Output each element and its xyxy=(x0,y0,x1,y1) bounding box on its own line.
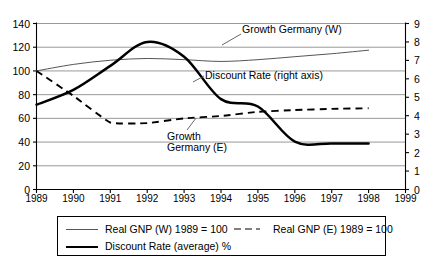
legend-item-discount: Discount Rate (average) % xyxy=(64,238,231,254)
legend-key-gnp-e xyxy=(232,223,268,235)
chart-screenshot: 020406080100120140 0123456789 1989199019… xyxy=(0,0,444,264)
x-tick-label: 1994 xyxy=(204,194,238,204)
leader-growth-west xyxy=(222,34,241,45)
chart-plot-area xyxy=(0,0,444,212)
legend-label-gnp-w: Real GNP (W) 1989 = 100 xyxy=(105,223,228,235)
left-tick-label: 20 xyxy=(4,161,30,172)
x-tick-label: 1999 xyxy=(389,194,423,204)
annotation-growth-west: Growth Germany (W) xyxy=(242,24,342,36)
legend-item-gnp-e: Real GNP (E) 1989 = 100 xyxy=(232,221,393,237)
chart-canvas xyxy=(0,0,444,212)
right-tick-label: 6 xyxy=(414,74,434,85)
legend-key-discount xyxy=(64,240,100,252)
x-tick-label: 1995 xyxy=(241,194,275,204)
x-tick-label: 1990 xyxy=(56,194,90,204)
legend-key-gnp-w xyxy=(64,223,100,235)
right-tick-label: 2 xyxy=(414,148,434,159)
annotation-discount-rate: Discount Rate (right axis) xyxy=(205,70,323,82)
x-tick-label: 1989 xyxy=(20,194,54,204)
series-line-gnp-west xyxy=(37,50,369,71)
right-tick-label: 1 xyxy=(414,166,434,177)
leader-growth-east xyxy=(187,118,196,130)
annotation-growth-east-line2: Germany (E) xyxy=(167,142,227,154)
legend-item-gnp-w: Real GNP (W) 1989 = 100 xyxy=(64,221,228,237)
right-tick-label: 5 xyxy=(414,92,434,103)
series-line-discount-rate xyxy=(37,42,369,145)
x-tick-label: 1996 xyxy=(278,194,312,204)
x-tick-label: 1997 xyxy=(315,194,349,204)
x-tick-label: 1998 xyxy=(352,194,386,204)
right-tick-label: 9 xyxy=(414,19,434,30)
x-tick-label: 1992 xyxy=(130,194,164,204)
left-tick-label: 100 xyxy=(4,66,30,77)
legend-label-discount: Discount Rate (average) % xyxy=(105,240,231,252)
right-tick-label: 3 xyxy=(414,129,434,140)
chart-legend: Real GNP (W) 1989 = 100 Real GNP (E) 198… xyxy=(57,216,386,256)
legend-label-gnp-e: Real GNP (E) 1989 = 100 xyxy=(273,223,393,235)
left-tick-label: 140 xyxy=(4,19,30,30)
right-tick-label: 8 xyxy=(414,37,434,48)
x-tick-label: 1993 xyxy=(167,194,201,204)
left-tick-label: 40 xyxy=(4,137,30,148)
x-tick-label: 1991 xyxy=(93,194,127,204)
left-tick-label: 80 xyxy=(4,90,30,101)
right-tick-label: 4 xyxy=(414,111,434,122)
left-tick-label: 120 xyxy=(4,42,30,53)
left-tick-label: 60 xyxy=(4,113,30,124)
right-tick-label: 7 xyxy=(414,55,434,66)
